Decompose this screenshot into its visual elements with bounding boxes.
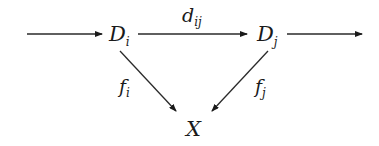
edge-label-d-ij: dij: [182, 4, 202, 29]
edge-label-f-i: fi: [117, 75, 130, 100]
edge-label-f-j: fj: [253, 75, 266, 100]
node-d-i: Di: [108, 22, 130, 49]
node-d-j: Dj: [256, 22, 278, 49]
arrow-f-i: [120, 51, 176, 111]
commutative-diagram: Di dij Dj fi fj X: [0, 0, 379, 146]
node-x: X: [184, 117, 202, 141]
